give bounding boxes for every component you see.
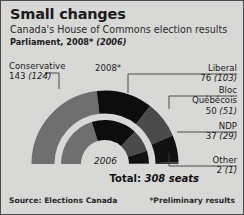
party-label-liberal: Liberal 76 (103): [200, 63, 237, 84]
party-seats-liberal: 76 (103): [200, 73, 237, 83]
party-seats-conservative: 143 (124): [9, 71, 66, 81]
infographic-figure: Small changes Canada's House of Commons …: [0, 0, 244, 215]
party-label-bloc-quebecois: Bloc Québécois 50 (51): [192, 85, 237, 116]
total-label: Total:: [110, 173, 141, 184]
party-name-ndp: NDP: [206, 121, 237, 131]
arc-outer-liberal: [98, 102, 143, 115]
party-seats-other: 2 (1): [213, 165, 237, 175]
total-seats: Total: 308 seats: [1, 173, 199, 184]
arc-inner-ndp: [137, 154, 139, 164]
arc-inner-conservative: [71, 132, 95, 164]
party-seats-ndp: 37 (29): [206, 131, 237, 141]
arc-inner-bloc-qu-b-cois: [128, 139, 137, 154]
parliament-prev-year: (2006): [96, 37, 126, 47]
page-title: Small changes: [10, 6, 126, 22]
arc-outer-bloc-qu-b-cois: [143, 115, 162, 140]
party-name-liberal: Liberal: [200, 63, 237, 73]
parliament-year: Parliament, 2008*: [10, 37, 93, 47]
ring-label-2006: 2006: [94, 156, 117, 166]
arc-inner-liberal: [95, 130, 128, 139]
party-name-conservative: Conservative: [9, 61, 66, 71]
arc-outer-ndp: [162, 140, 167, 163]
ring-label-2008: 2008*: [95, 63, 121, 73]
preliminary-note: *Preliminary results: [149, 196, 235, 205]
total-value: 308 seats: [144, 173, 199, 184]
source-note: Source: Elections Canada: [9, 196, 117, 205]
party-label-conservative: Conservative 143 (124): [9, 61, 66, 82]
party-name-other: Other: [213, 155, 237, 165]
party-name-bloc: Bloc: [192, 85, 237, 95]
parliament-line: Parliament, 2008* (2006): [10, 37, 126, 47]
party-label-other: Other 2 (1): [213, 155, 237, 176]
chart-subtitle: Canada's House of Commons election resul…: [10, 24, 227, 35]
party-name-quebecois: Québécois: [192, 95, 237, 105]
chart-header: Small changes Canada's House of Commons …: [1, 1, 244, 53]
party-seats-bloc: 50 (51): [192, 106, 237, 116]
party-label-ndp: NDP 37 (29): [206, 121, 237, 142]
